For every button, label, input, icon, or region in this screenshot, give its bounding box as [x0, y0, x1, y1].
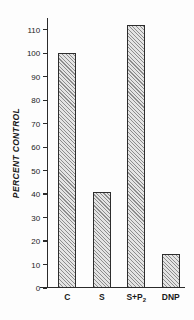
- y-tick-label-40: 40: [31, 190, 40, 199]
- y-tick-10: 10: [43, 264, 48, 265]
- y-axis-title: PERCENT CONTROL: [11, 103, 21, 203]
- y-tick-90: 90: [43, 76, 48, 77]
- y-tick-label-80: 80: [31, 96, 40, 105]
- x-tick-label-S: S: [85, 292, 120, 302]
- y-tick-100: 100: [43, 53, 48, 54]
- y-tick-label-70: 70: [31, 119, 40, 128]
- y-tick-label-90: 90: [31, 72, 40, 81]
- y-tick-label-0: 0: [36, 283, 40, 292]
- bar-DNP: [162, 254, 180, 288]
- y-tick-label-50: 50: [31, 166, 40, 175]
- y-tick-50: 50: [43, 170, 48, 171]
- y-tick-label-100: 100: [27, 49, 40, 58]
- y-tick-20: 20: [43, 240, 48, 241]
- y-tick-label-60: 60: [31, 143, 40, 152]
- x-tick-label-S+P2: S+P2: [119, 292, 154, 303]
- x-tick-label-C: C: [50, 292, 85, 302]
- bar-S+P2: [127, 25, 145, 288]
- bar-C: [58, 53, 76, 288]
- y-tick-label-110: 110: [28, 25, 40, 34]
- y-tick-40: 40: [43, 193, 48, 194]
- bar-S: [93, 192, 111, 288]
- y-tick-80: 80: [43, 100, 48, 101]
- y-tick-60: 60: [43, 147, 48, 148]
- y-axis-line: [47, 18, 48, 288]
- y-tick-0: 0: [43, 287, 48, 288]
- y-tick-70: 70: [43, 123, 48, 124]
- y-tick-30: 30: [43, 217, 48, 218]
- x-tick-label-DNP: DNP: [154, 292, 189, 302]
- y-tick-110: 110: [43, 29, 48, 30]
- plot-area: 0102030405060708090100110 CSS+P2DNP: [47, 18, 185, 288]
- bar-chart-figure: PERCENT CONTROL 010203040506070809010011…: [0, 0, 194, 320]
- y-tick-label-30: 30: [31, 213, 40, 222]
- y-tick-label-10: 10: [31, 260, 40, 269]
- y-tick-label-20: 20: [31, 237, 40, 246]
